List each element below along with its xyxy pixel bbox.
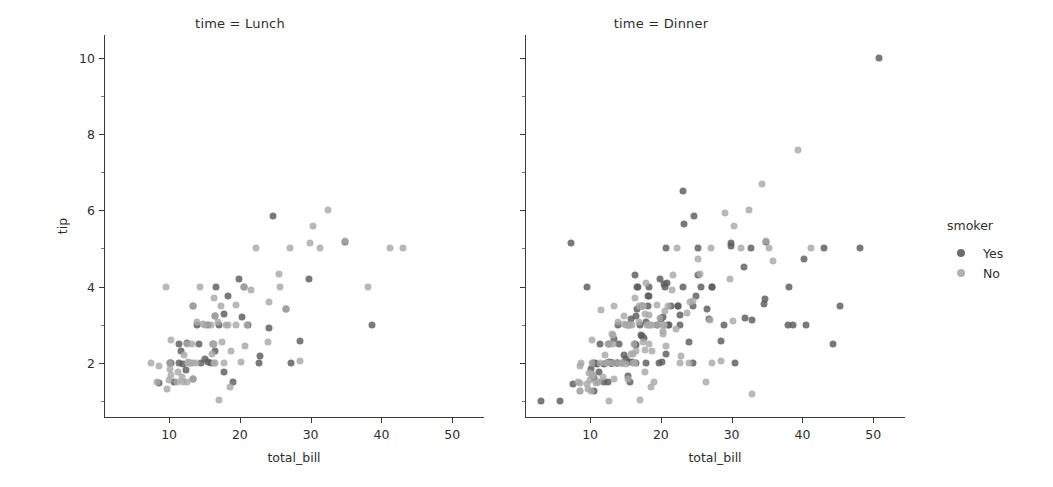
y-axis-title: tip [55, 218, 70, 234]
scatter-point [631, 340, 638, 347]
scatter-point [656, 276, 663, 283]
scatter-point [212, 283, 219, 290]
scatter-point [165, 376, 172, 383]
scatter-point [646, 340, 653, 347]
x-tick-30 [732, 418, 733, 423]
scatter-point [679, 283, 686, 290]
scatter-point [821, 245, 828, 252]
scatter-point [698, 283, 705, 290]
scatter-point [270, 213, 277, 220]
y-tick-8 [99, 134, 104, 135]
scatter-point [210, 294, 217, 301]
scatter-point [740, 264, 747, 271]
legend-swatch-yes-icon [957, 249, 965, 257]
scatter-point [669, 272, 676, 279]
scatter-point [708, 359, 715, 366]
scatter-point [745, 207, 752, 214]
y-minor-tick-3 [101, 325, 104, 326]
y-tick-10 [99, 58, 104, 59]
scatter-point [800, 255, 807, 262]
scatter-point [296, 338, 303, 345]
scatter-point [238, 313, 245, 320]
scatter-point [166, 366, 173, 373]
scatter-point [297, 357, 304, 364]
scatter-point [240, 283, 247, 290]
scatter-point [215, 397, 222, 404]
scatter-point [306, 240, 313, 247]
scatter-point [577, 362, 584, 369]
x-tick-10 [590, 418, 591, 423]
scatter-point [227, 384, 234, 391]
scatter-point [707, 245, 714, 252]
scatter-point [190, 303, 197, 310]
scatter-point [264, 338, 271, 345]
y-minor-tick-7 [101, 172, 104, 173]
scatter-point [255, 359, 262, 366]
y-tick-4 [520, 287, 525, 288]
scatter-point [576, 388, 583, 395]
x-tick-label-30: 30 [303, 427, 319, 442]
y-minor-tick-9 [522, 96, 525, 97]
scatter-point [386, 245, 393, 252]
x-tick-40 [381, 418, 382, 423]
scatter-point [790, 321, 797, 328]
scatter-point [721, 321, 728, 328]
scatter-point [557, 397, 564, 404]
scatter-point [629, 359, 636, 366]
scatter-point [662, 342, 669, 349]
scatter-point [761, 295, 768, 302]
x-tick-label-20: 20 [653, 427, 669, 442]
scatter-point [659, 328, 666, 335]
scatter-point [737, 245, 744, 252]
scatter-point [210, 340, 217, 347]
scatter-point [238, 359, 245, 366]
scatter-point [691, 213, 698, 220]
scatter-point [680, 188, 687, 195]
scatter-point [211, 312, 218, 319]
scatter-point [316, 245, 323, 252]
x-tick-label-10: 10 [161, 427, 177, 442]
scatter-point [218, 339, 225, 346]
scatter-point [222, 321, 229, 328]
scatter-point [661, 283, 668, 290]
x-axis-title-dinner: total_bill [525, 450, 905, 465]
scatter-point [748, 391, 755, 398]
x-tick-20 [661, 418, 662, 423]
y-tick-label-8: 8 [87, 127, 95, 142]
x-tick-label-30: 30 [724, 427, 740, 442]
y-tick-label-6: 6 [87, 203, 95, 218]
scatter-point [731, 222, 738, 229]
x-tick-30 [311, 418, 312, 423]
scatter-point [807, 245, 814, 252]
scatter-point [596, 340, 603, 347]
scatter-point [609, 331, 616, 338]
scatter-point [636, 397, 643, 404]
legend-item-yes[interactable]: Yes [957, 243, 1047, 263]
scatter-point [224, 292, 231, 299]
scatter-point [747, 245, 754, 252]
scatter-point [584, 283, 591, 290]
x-tick-50 [873, 418, 874, 423]
scatter-point [672, 326, 679, 333]
scatter-point [369, 321, 376, 328]
scatter-point [642, 369, 649, 376]
scatter-point [196, 283, 203, 290]
scatter-point [154, 378, 161, 385]
scatter-point [235, 276, 242, 283]
y-tick-label-10: 10 [79, 50, 95, 65]
y-tick-2 [520, 363, 525, 364]
legend-title: smoker [947, 218, 1047, 233]
scatter-point [857, 245, 864, 252]
scatter-point [166, 359, 173, 366]
scatter-point [686, 298, 693, 305]
scatter-point [233, 302, 240, 309]
scatter-point [633, 283, 640, 290]
scatter-point [598, 306, 605, 313]
scatter-point [709, 283, 716, 290]
scatter-point [610, 340, 617, 347]
scatter-point [631, 294, 638, 301]
legend-item-no[interactable]: No [957, 263, 1047, 283]
scatter-point [620, 312, 627, 319]
y-minor-tick-9 [101, 96, 104, 97]
scatter-point [829, 340, 836, 347]
